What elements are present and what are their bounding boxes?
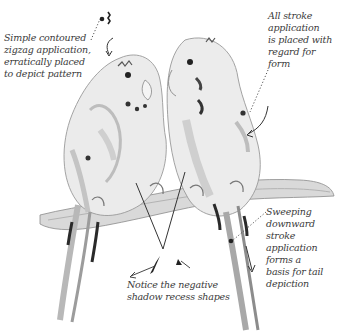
pattern-note-pointer: [91, 12, 113, 56]
tail-annotation: Sweeping downward stroke application for…: [266, 206, 323, 290]
shadow-annotation: Notice the negative shadow recess shapes: [127, 279, 230, 303]
form-annotation: All stroke application is placed with re…: [268, 10, 337, 70]
pattern-annotation: Simple contoured zigzag application, err…: [4, 32, 91, 80]
illustration-canvas: Simple contoured zigzag application, err…: [0, 0, 337, 333]
